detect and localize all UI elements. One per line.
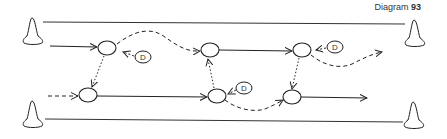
defender-1: D <box>135 51 151 63</box>
pressure-arrow-3 <box>316 48 326 50</box>
run-arrow-bottom-exit <box>301 97 367 98</box>
pass-arrow-1 <box>92 56 104 87</box>
player-3 <box>201 43 219 57</box>
top-boundary-line <box>43 22 405 24</box>
drill-diagram: D D D <box>0 0 447 139</box>
dribble-arrow-top-exit <box>311 52 382 66</box>
dribble-arrow-top-1 <box>117 31 200 51</box>
player-2 <box>79 88 97 102</box>
run-arrow-top-mid <box>219 50 292 51</box>
pass-arrow-2 <box>208 59 214 88</box>
player-4 <box>293 43 311 57</box>
svg-text:D: D <box>241 84 247 93</box>
pressure-arrow-1 <box>123 52 134 56</box>
player-1 <box>98 41 116 55</box>
pass-arrow-3 <box>292 58 299 89</box>
bottom-boundary-line <box>45 119 403 122</box>
run-arrow-bottom-mid <box>97 96 207 97</box>
cone-icon-top-left <box>23 18 42 45</box>
defender-2: D <box>236 82 252 94</box>
cone-icon-bottom-right <box>404 102 423 129</box>
player-6 <box>283 90 301 104</box>
cone-icon-bottom-left <box>23 101 42 128</box>
run-arrow-top-entry <box>50 46 97 47</box>
svg-text:D: D <box>332 43 338 52</box>
player-5 <box>208 89 226 103</box>
svg-text:D: D <box>140 53 146 62</box>
pressure-arrow-2 <box>228 90 236 94</box>
cone-icon-top-right <box>405 20 424 47</box>
dribble-arrow-bottom-2 <box>225 100 283 110</box>
defender-3: D <box>327 41 343 53</box>
